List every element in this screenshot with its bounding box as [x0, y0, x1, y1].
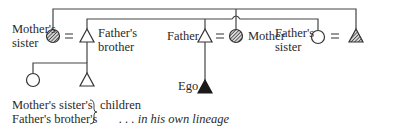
descent-line-cousins [33, 42, 87, 73]
caption-note: . . . in his own lineage [119, 113, 229, 126]
marriage-equals-icon [65, 34, 73, 38]
fathers-brother-label-line2: brother [98, 41, 134, 54]
fathers-brothers-child-triangle-icon [80, 73, 94, 86]
fathers-brother-label-line1: Father's [98, 27, 137, 40]
mothers-sisters-child-circle-icon [27, 74, 40, 87]
marriage-equals-icon [331, 34, 339, 38]
marriage-equals-icon [216, 34, 224, 38]
fathers-sisters-husband-triangle-icon [349, 29, 363, 42]
father-label: Father [167, 30, 199, 43]
caption-line2: Father's brother's [12, 113, 97, 126]
mother-circle-icon [230, 30, 243, 43]
father-triangle-icon [198, 29, 212, 42]
mothers-sister-label-line1: Mother's [12, 23, 56, 36]
fathers-sister-label-line2: sister [275, 41, 301, 54]
fathers-sister-label-line1: Father's [275, 27, 314, 40]
ego-label: Ego [178, 80, 198, 93]
caption-line1: Mother's sister's [12, 99, 93, 112]
fathers-brother-triangle-icon [80, 29, 94, 42]
caption-children: children [100, 99, 141, 112]
ego-triangle-icon [198, 80, 212, 93]
mothers-sister-label-line2: sister [12, 37, 38, 50]
